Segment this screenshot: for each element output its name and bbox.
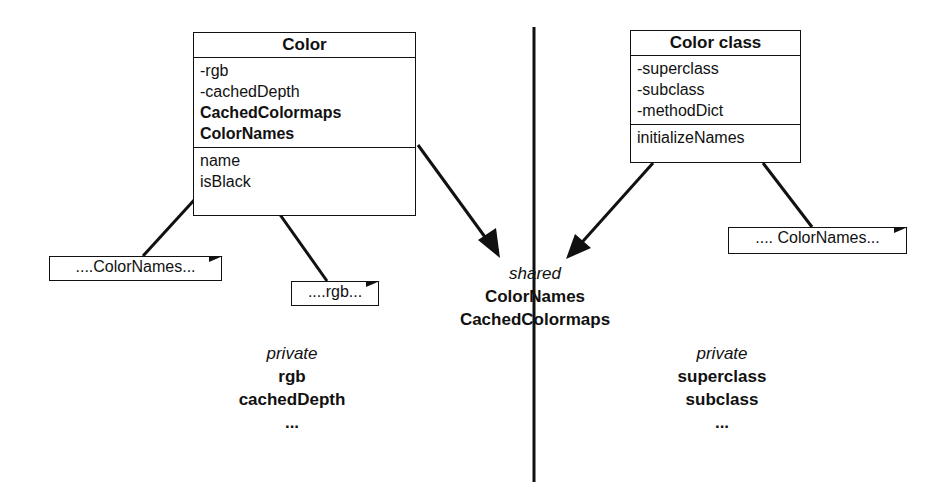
private-caption: private: [630, 342, 814, 365]
note-colornames-left[interactable]: ....ColorNames...: [49, 256, 222, 281]
private-right-label: private superclass subclass ...: [630, 342, 814, 434]
method-name: name: [200, 150, 409, 171]
private-item-rgb: rgb: [200, 365, 384, 388]
note-colornames-right[interactable]: .... ColorNames...: [728, 227, 907, 254]
connector-initializenames-note: [763, 163, 812, 227]
note-rgb[interactable]: ....rgb...: [291, 281, 379, 306]
private-caption: private: [200, 342, 384, 365]
class-name: Color class: [631, 31, 800, 56]
note-fold-icon: [209, 256, 223, 262]
methods-section: initializeNames: [631, 124, 800, 151]
note-fold-icon: [366, 281, 380, 287]
methods-section: name isBlack: [194, 147, 415, 195]
attribute-subclass: -subclass: [637, 79, 794, 100]
arrow-color-to-shared: [418, 145, 493, 248]
private-item-superclass: superclass: [630, 365, 814, 388]
shared-item-cachedcolormaps: CachedColormaps: [425, 308, 645, 331]
attribute-rgb: -rgb: [200, 60, 409, 81]
connector-isblack-note: [276, 209, 327, 281]
attribute-cachedcolormaps: CachedColormaps: [200, 102, 409, 123]
attribute-cacheddepth: -cachedDepth: [200, 81, 409, 102]
attributes-section: -rgb -cachedDepth CachedColormaps ColorN…: [194, 58, 415, 147]
private-item-subclass: subclass: [630, 388, 814, 411]
attribute-superclass: -superclass: [637, 58, 794, 79]
attributes-section: -superclass -subclass -methodDict: [631, 56, 800, 124]
shared-variables-label: shared ColorNames CachedColormaps: [425, 262, 645, 331]
shared-item-colornames: ColorNames: [425, 285, 645, 308]
shared-caption: shared: [425, 262, 645, 285]
diagram-canvas: Color -rgb -cachedDepth CachedColormaps …: [0, 0, 950, 504]
note-text: .... ColorNames...: [755, 229, 879, 246]
class-name: Color: [194, 33, 415, 58]
private-left-label: private rgb cachedDepth ...: [200, 342, 384, 434]
private-item-ellipsis: ...: [200, 411, 384, 434]
note-text: ....rgb...: [308, 283, 362, 300]
private-item-ellipsis: ...: [630, 411, 814, 434]
method-isblack: isBlack: [200, 171, 409, 192]
method-initializenames: initializeNames: [637, 127, 794, 148]
class-box-color[interactable]: Color -rgb -cachedDepth CachedColormaps …: [193, 32, 416, 216]
private-item-cacheddepth: cachedDepth: [200, 388, 384, 411]
class-box-color-class[interactable]: Color class -superclass -subclass -metho…: [630, 30, 801, 163]
arrow-colorclass-to-shared: [576, 163, 653, 249]
connector-name-note: [143, 198, 196, 256]
attribute-methoddict: -methodDict: [637, 100, 794, 121]
attribute-colornames: ColorNames: [200, 123, 409, 144]
note-fold-icon: [894, 227, 908, 233]
note-text: ....ColorNames...: [75, 258, 195, 275]
